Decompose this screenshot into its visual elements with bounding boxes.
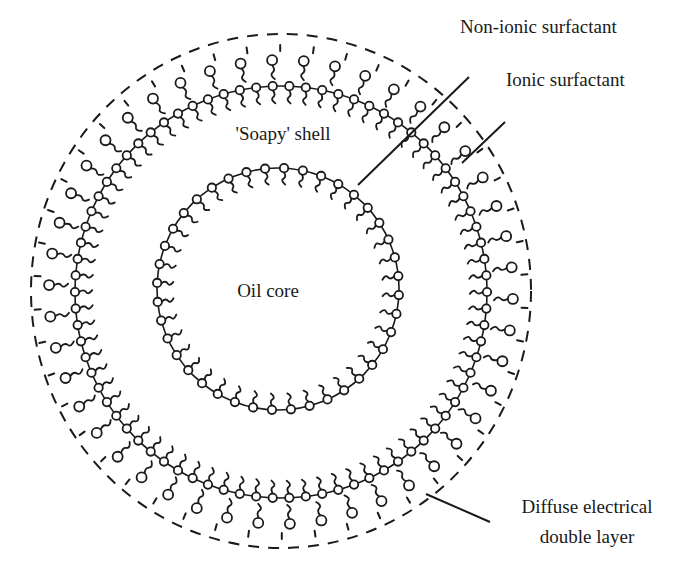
core-surfactant [334, 378, 349, 395]
core-surfactant [161, 242, 181, 252]
ionic-surfactant [253, 504, 263, 528]
non-ionic-surfactant [112, 164, 131, 178]
non-ionic-surfactant [174, 109, 188, 127]
surfactant-head [137, 472, 147, 482]
non-ionic-surfactant [442, 178, 460, 193]
core-surfactant [375, 326, 395, 336]
surfactant-tail [287, 393, 291, 405]
surfactant-tail [421, 418, 432, 425]
core-surfactant [184, 358, 199, 374]
surfactant-head [429, 461, 439, 471]
surfactant-head [147, 128, 155, 136]
surfactant-tail [315, 180, 320, 192]
core-surfactant [214, 379, 226, 398]
surfactant-head [482, 271, 490, 279]
non-ionic-surfactant [174, 455, 186, 475]
core-surfactant [172, 345, 189, 360]
non-ionic-surfactant [454, 366, 475, 377]
diffuse-layer-label-line2: double layer [540, 526, 635, 547]
surfactant-tail [493, 268, 507, 272]
surfactant-tail [55, 313, 69, 317]
surfactant-head [94, 192, 102, 200]
charge-mark [215, 524, 217, 530]
charge-mark [248, 531, 249, 537]
charge-mark [508, 372, 514, 374]
charge-mark [48, 210, 54, 212]
surfactant-head [466, 369, 474, 377]
non-ionic-leader [358, 77, 469, 185]
surfactant-tail [211, 76, 217, 89]
core-surfactant [347, 368, 363, 383]
surfactant-head [74, 402, 84, 412]
core-surfactant [180, 209, 198, 222]
non-ionic-surfactant [464, 337, 485, 346]
surfactant-tail [461, 228, 473, 234]
surfactant-tail [194, 462, 199, 475]
surfactant-tail [303, 92, 306, 105]
surfactant-head [334, 486, 342, 494]
surfactant-head [482, 304, 490, 312]
surfactant-head [451, 439, 461, 449]
non-ionic-surfactant [470, 288, 491, 296]
surfactant-head [92, 428, 102, 438]
charge-mark [347, 524, 349, 530]
surfactant-tail [80, 305, 93, 308]
surfactant-head [380, 109, 388, 117]
surfactant-tail [85, 335, 97, 340]
charge-mark [39, 243, 45, 244]
charge-mark [100, 124, 104, 128]
non-ionic-surfactant [362, 102, 373, 123]
surfactant-head [81, 223, 89, 231]
non-ionic-surfactant [431, 406, 450, 420]
surfactant-head [94, 384, 102, 392]
surfactant-tail [227, 499, 231, 513]
charge-mark [457, 123, 461, 127]
surfactant-head [101, 135, 111, 145]
surfactant-tail [240, 477, 244, 490]
surfactant-head [222, 513, 232, 523]
surfactant-tail [164, 264, 176, 268]
surfactant-tail [442, 184, 452, 193]
ionic-leader [462, 122, 505, 163]
non-ionic-surfactant [112, 404, 129, 420]
core-surfactant [287, 393, 295, 413]
charge-mark [183, 513, 185, 519]
surfactant-tail [84, 395, 95, 404]
non-ionic-surfactant [469, 304, 490, 312]
surfactant-head [392, 310, 400, 318]
surfactant-tail [467, 322, 480, 326]
surfactant-head [71, 271, 79, 279]
surfactant-head [441, 412, 449, 420]
surfactant-head [161, 242, 169, 250]
surfactant-tail [484, 356, 498, 361]
surfactant-head [285, 519, 295, 529]
surfactant-tail [194, 110, 201, 121]
non-ionic-surfactant [302, 83, 310, 105]
core-surfactant [163, 330, 181, 343]
ionic-surfactant [267, 55, 277, 79]
ionic-surfactant [61, 369, 83, 383]
surfactant-head [285, 494, 293, 502]
surfactant-head [219, 90, 227, 98]
surfactant-head [249, 403, 257, 411]
surfactant-tail [301, 66, 304, 80]
core-surfactant [208, 183, 223, 200]
charge-mark [345, 54, 347, 60]
surfactant-tail [397, 471, 406, 482]
surfactant-head [497, 356, 507, 366]
surfactant-tail [165, 315, 176, 320]
surfactant-head [269, 82, 277, 90]
surfactant-tail [382, 276, 394, 280]
core-surfactant [299, 166, 307, 186]
surfactant-tail [344, 495, 350, 508]
surfactant-tail [156, 103, 165, 114]
ionic-surfactant [137, 461, 152, 482]
core-surfactant [383, 291, 403, 299]
surfactant-head [192, 503, 202, 513]
surfactant-head [193, 195, 201, 203]
non-ionic-surfactant [374, 456, 388, 474]
surfactant-head [73, 255, 81, 263]
surfactant-head [477, 337, 485, 345]
core-surfactant [280, 164, 288, 184]
surfactant-head [174, 109, 182, 117]
